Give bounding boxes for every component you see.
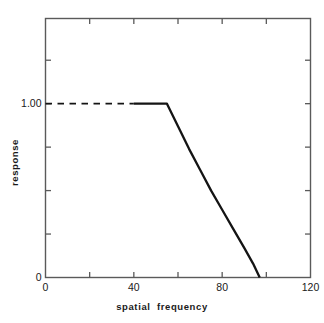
y-tick-label-1: 1.00 bbox=[2, 97, 42, 109]
chart-background bbox=[0, 0, 324, 323]
chart-figure: 0 40 80 120 0 1.00 spatial frequency res… bbox=[0, 0, 324, 323]
x-axis-title: spatial frequency bbox=[0, 301, 324, 312]
plot-area bbox=[0, 0, 324, 323]
x-tick-label-120: 120 bbox=[291, 281, 324, 293]
x-tick-label-80: 80 bbox=[202, 281, 242, 293]
y-axis-title: response bbox=[9, 123, 20, 203]
x-tick-label-40: 40 bbox=[114, 281, 154, 293]
y-tick-label-0: 0 bbox=[2, 271, 42, 283]
